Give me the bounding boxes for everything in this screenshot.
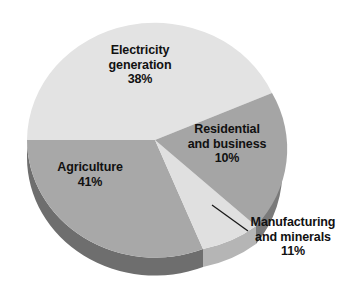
pie-chart-figure: Electricity generation 38% Residential a… bbox=[0, 0, 346, 295]
pie-top-face bbox=[27, 23, 287, 258]
pie-chart-graphic bbox=[0, 0, 346, 295]
